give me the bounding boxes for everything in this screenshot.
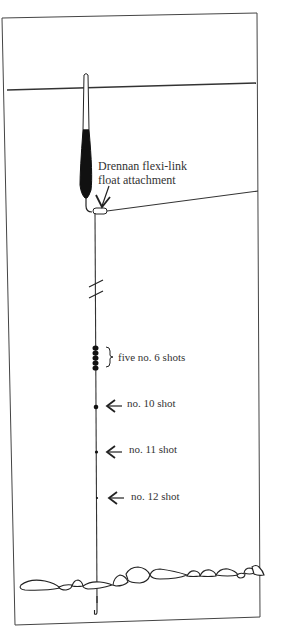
shot-10-label: no. 10 shot [127,397,176,409]
shot-12 [96,497,98,499]
line-break-mark [89,291,103,298]
bulk-shots-brace [106,347,113,367]
shot-11 [95,450,98,453]
water-surface [7,83,256,90]
hook [95,596,98,614]
bulk-shots [93,345,99,370]
flexi-link-label: Drennan flexi-link float attachment [98,159,187,187]
float-stem-bend [86,206,92,212]
flexi-link-label-line1: Drennan flexi-link [98,159,187,173]
shot-10 [94,405,99,410]
flexi-arrow-head [96,195,110,207]
lakebed-stones [20,566,264,591]
float-body [80,130,92,198]
shot-12-label: no. 12 shot [131,490,180,502]
float-antenna [83,74,89,131]
shot-11-label: no. 11 shot [129,443,177,455]
frame [2,13,260,625]
flexi-link-label-line2: float attachment [98,173,187,187]
line-break-mark [89,280,103,287]
rod-line [107,191,258,211]
five-shots-label: five no. 6 shots [118,351,185,363]
rig-diagram [0,0,282,638]
